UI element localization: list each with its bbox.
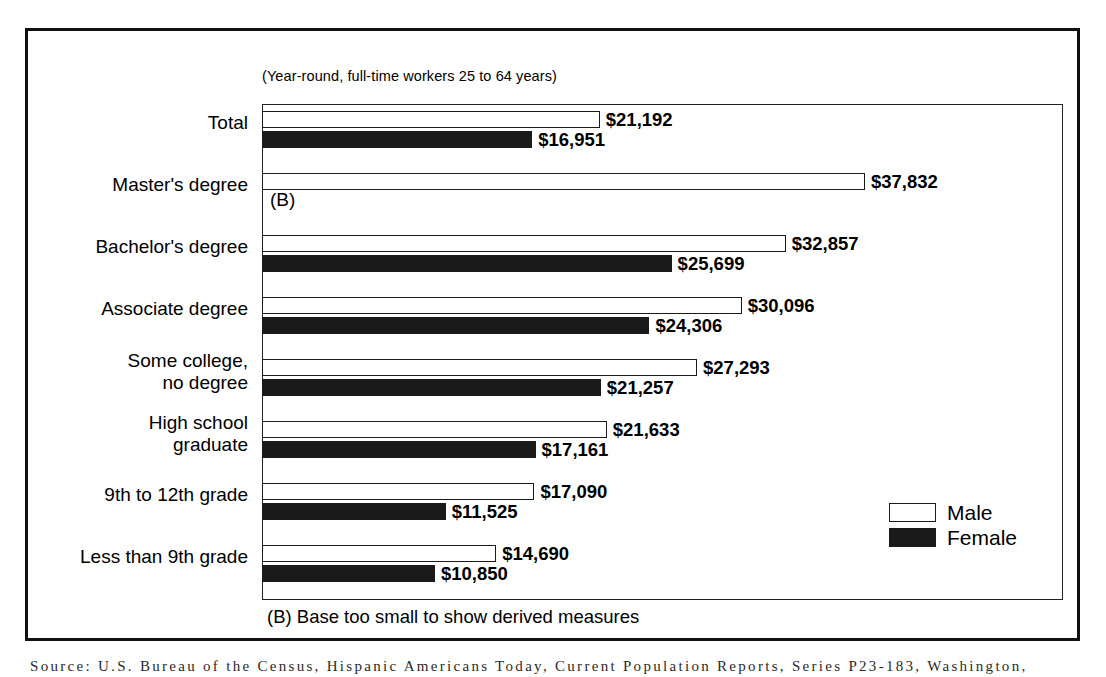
- bar-male: [262, 359, 697, 376]
- legend-label-female: Female: [947, 525, 1017, 550]
- bar-female: [262, 131, 532, 148]
- bar-value-female: $11,525: [452, 503, 518, 520]
- category-label: Bachelor's degree: [0, 236, 248, 257]
- bar-value-female: $16,951: [538, 131, 605, 148]
- bar-female: [262, 255, 672, 272]
- category-label: Total: [0, 112, 248, 133]
- bar-male: [262, 235, 786, 252]
- bar-value-female: $25,699: [678, 255, 745, 272]
- bar-value-female: $21,257: [607, 379, 674, 396]
- category-label: Master's degree: [0, 174, 248, 195]
- bar-value-male: $27,293: [703, 359, 770, 376]
- chart-subtitle: (Year-round, full-time workers 25 to 64 …: [262, 68, 557, 84]
- legend-label-male: Male: [947, 500, 993, 525]
- category-label: Associate degree: [0, 298, 248, 319]
- legend-swatch-female: [889, 528, 936, 547]
- bar-female: [262, 379, 601, 396]
- bar-female: [262, 565, 435, 582]
- bar-male: [262, 545, 496, 562]
- bar-value-male: $37,832: [871, 173, 938, 190]
- bar-value-male: $32,857: [792, 235, 859, 252]
- category-label: High school graduate: [0, 412, 248, 455]
- bar-value-female: $24,306: [655, 317, 722, 334]
- bar-value-male: $30,096: [748, 297, 815, 314]
- bar-value-female: $17,161: [542, 441, 609, 458]
- suppressed-value-marker: (B): [270, 191, 295, 208]
- bar-male: [262, 483, 534, 500]
- category-label: Some college, no degree: [0, 350, 248, 393]
- bar-value-male: $21,633: [613, 421, 680, 438]
- bar-female: [262, 317, 649, 334]
- category-label: Less than 9th grade: [0, 546, 248, 567]
- bar-male: [262, 421, 607, 438]
- bar-value-female: $10,850: [441, 565, 508, 582]
- bar-male: [262, 111, 600, 128]
- bar-male: [262, 297, 742, 314]
- bar-male: [262, 173, 865, 190]
- bar-female: [262, 503, 446, 520]
- chart-footnote: (B) Base too small to show derived measu…: [267, 606, 639, 628]
- bar-value-male: $21,192: [606, 111, 673, 128]
- bar-female: [262, 441, 536, 458]
- source-citation: Source: U.S. Bureau of the Census, Hispa…: [30, 658, 1080, 675]
- bar-value-male: $14,690: [502, 545, 569, 562]
- category-label: 9th to 12th grade: [0, 484, 248, 505]
- legend-swatch-male: [889, 503, 936, 522]
- bar-value-male: $17,090: [540, 483, 607, 500]
